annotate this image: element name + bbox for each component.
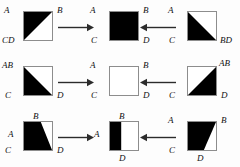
left-vertical-strip-shape [110,122,138,150]
square-lower-right-triangle [187,66,217,96]
square-lower-left-triangle [187,11,217,41]
corner-label-bottom-right: D [143,91,150,100]
square-empty [109,66,139,96]
lower-left-triangle-shape [24,67,52,95]
corner-label-top-right: B [221,116,227,125]
corner-label-bottom-left: CD [2,36,15,45]
square-left-trapezoid [23,121,53,151]
corner-label-bottom-left: C [5,91,11,100]
upper-left-triangle-shape [24,12,52,40]
corner-label-top-right: B [143,6,149,15]
left-trapezoid-shape [24,122,52,150]
edge-label-bottom-center: D [119,154,126,163]
corner-label-top-left: A [168,6,174,15]
diagram-row: B A C D B A D [0,110,240,166]
diagram-row: AB C D A B C D [0,55,240,111]
edge-label-bottom-center: D [197,154,204,163]
square-left-strip [109,121,139,151]
figure-cell-right: AB C D [166,55,240,111]
figure-cell-right: A B C D [166,110,240,166]
corner-label-bottom-left: C [91,91,97,100]
corner-label-bottom-left: C [169,36,175,45]
corner-label-top-right: AB [219,59,230,68]
edge-label-middle-left: A [94,130,100,139]
square-fully-filled [109,11,139,41]
figure-cell-right: A C BD [166,0,240,56]
top-trapezoid-shape [188,122,216,150]
square-upper-left-triangle [23,11,53,41]
corner-label-bottom-left: C [91,36,97,45]
corner-label-top-left: A [168,116,174,125]
corner-label-bottom-right: D [221,91,228,100]
corner-label-bottom-right: D [57,146,64,155]
corner-label-top-right: B [143,61,149,70]
lower-left-triangle-shape [188,12,216,40]
corner-label-bottom-left: C [169,91,175,100]
corner-label-bottom-right: BD [220,36,232,45]
corner-label-top-left: A [90,61,96,70]
full-fill-shape [110,12,138,40]
corner-label-top-left: A [4,6,10,15]
edge-label-top-center: B [33,112,39,121]
edge-label-top-center: B [119,112,125,121]
square-top-trapezoid [187,121,217,151]
square-lower-left-triangle [23,66,53,96]
edge-label-middle-left: A [8,130,14,139]
corner-label-bottom-right: D [57,91,64,100]
diagram-row: A B CD A B C D [0,0,240,56]
corner-label-bottom-left: C [169,146,175,155]
empty-fill-shape [110,67,138,95]
diagram-canvas: A B CD A B C D [0,0,240,167]
corner-label-top-left: A [90,6,96,15]
lower-right-triangle-shape [188,67,216,95]
corner-label-bottom-right: D [143,36,150,45]
corner-label-top-left: AB [2,61,13,70]
corner-label-top-right: B [57,6,63,15]
corner-label-bottom-left: C [5,146,11,155]
